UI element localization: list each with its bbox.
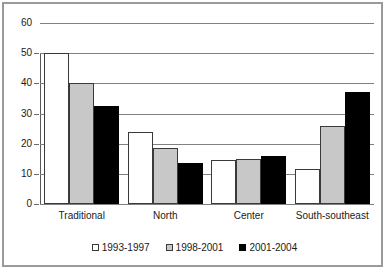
x-axis-label-traditional: Traditional [40, 210, 124, 222]
bar-south-southeast-2001-2004 [345, 92, 370, 204]
legend-item-label: 2001-2004 [249, 242, 297, 253]
gray-square-icon [166, 244, 173, 251]
bar-center-2001-2004 [261, 156, 286, 204]
bar-traditional-2001-2004 [94, 106, 119, 204]
y-tick-label-40: 40 [4, 78, 32, 88]
plot-area [40, 23, 374, 204]
y-tick-mark-40 [34, 83, 39, 84]
y-tick-mark-0 [34, 204, 39, 205]
y-tick-mark-10 [34, 174, 39, 175]
chart-legend: 1993-19971998-20012001-2004 [4, 242, 385, 253]
y-tick-label-20: 20 [4, 139, 32, 149]
y-tick-mark-30 [34, 114, 39, 115]
bar-north-1993-1997 [128, 132, 153, 204]
y-tick-mark-20 [34, 144, 39, 145]
white-square-icon [92, 244, 99, 251]
x-axis-label-south-southeast: South-southeast [291, 210, 375, 222]
bar-north-1998-2001 [153, 148, 178, 204]
y-tick-label-30: 30 [4, 109, 32, 119]
legend-item-label: 1993-1997 [102, 242, 150, 253]
bar-traditional-1998-2001 [69, 83, 94, 204]
x-axis-label-center: Center [207, 210, 291, 222]
bar-north-2001-2004 [178, 163, 203, 204]
legend-item-1993-1997[interactable]: 1993-1997 [92, 242, 150, 253]
black-square-icon [239, 244, 246, 251]
bar-south-southeast-1998-2001 [320, 126, 345, 204]
bar-south-southeast-1993-1997 [295, 169, 320, 204]
gridline-60 [40, 23, 374, 24]
bar-center-1998-2001 [236, 159, 261, 204]
y-tick-label-60: 60 [4, 18, 32, 28]
gridline-50 [40, 53, 374, 54]
x-axis-label-north: North [124, 210, 208, 222]
chart-frame: 0102030405060 1993-19971998-20012001-200… [2, 2, 383, 267]
y-tick-label-0: 0 [4, 199, 32, 209]
y-tick-label-10: 10 [4, 169, 32, 179]
y-tick-mark-50 [34, 53, 39, 54]
gridline-0 [40, 204, 374, 205]
legend-item-1998-2001[interactable]: 1998-2001 [166, 242, 224, 253]
legend-item-label: 1998-2001 [176, 242, 224, 253]
legend-item-2001-2004[interactable]: 2001-2004 [239, 242, 297, 253]
bar-center-1993-1997 [211, 160, 236, 204]
bar-traditional-1993-1997 [44, 53, 69, 204]
y-tick-label-50: 50 [4, 48, 32, 58]
